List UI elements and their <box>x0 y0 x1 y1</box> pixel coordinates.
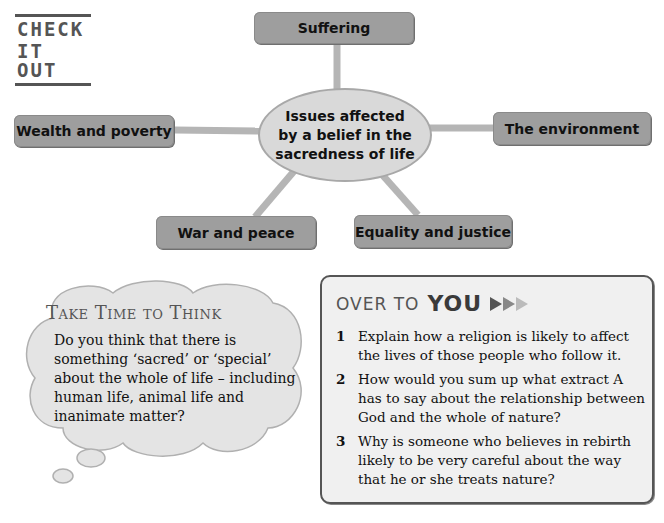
hub-label: Issues affected by a belief in the sacre… <box>275 107 415 164</box>
node-suffering: Suffering <box>254 12 414 44</box>
you-title-bold: YOU <box>427 291 482 316</box>
take-time-body: Do you think that there is something ‘sa… <box>54 331 304 426</box>
question-item: 1 Explain how a religion is likely to af… <box>336 327 646 365</box>
question-number: 2 <box>336 370 358 427</box>
triple-arrow-icon <box>490 297 529 311</box>
question-item: 2 How would you sum up what extract A ha… <box>336 370 646 427</box>
over-to-title-light: OVER TO <box>336 294 419 314</box>
question-number: 1 <box>336 327 358 365</box>
over-to-you-heading: OVER TO YOU <box>336 291 529 316</box>
over-to-you-box: OVER TO YOU 1 Explain how a religion is … <box>320 275 654 504</box>
node-the-environment: The environment <box>493 112 651 145</box>
take-time-title: Take Time to Think <box>46 302 222 323</box>
node-war-and-peace: War and peace <box>156 216 316 249</box>
question-number: 3 <box>336 432 358 489</box>
question-text: Why is someone who believes in rebirth l… <box>358 432 646 489</box>
question-list: 1 Explain how a religion is likely to af… <box>336 327 646 494</box>
question-item: 3 Why is someone who believes in rebirth… <box>336 432 646 489</box>
hub-ellipse: Issues affected by a belief in the sacre… <box>258 88 432 182</box>
question-text: How would you sum up what extract A has … <box>358 370 646 427</box>
node-equality-and-justice: Equality and justice <box>354 215 512 248</box>
node-wealth-and-poverty: Wealth and poverty <box>14 115 174 147</box>
question-text: Explain how a religion is likely to affe… <box>358 327 646 365</box>
